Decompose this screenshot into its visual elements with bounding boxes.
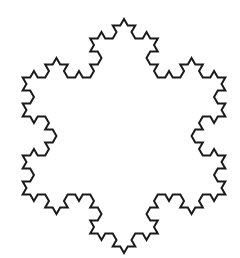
diagram-canvas [0, 0, 240, 258]
koch-snowflake [0, 0, 240, 258]
snowflake-outline [23, 19, 226, 253]
